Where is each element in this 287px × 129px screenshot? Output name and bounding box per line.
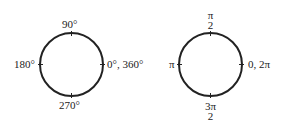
label-270-degrees: 270° [59,100,80,111]
label-0-360-degrees: 0°, 360° [107,59,143,70]
radians-circle [177,31,244,98]
denominator: 2 [199,111,223,121]
unit-circles-graphic [0,0,287,129]
degrees-circle [38,31,105,98]
label-pi-over-2: π 2 [199,10,223,30]
label-3pi-over-2: 3π 2 [199,101,223,121]
denominator: 2 [199,20,223,30]
label-pi: π [169,59,175,70]
label-0-2pi: 0, 2π [248,59,270,70]
label-90-degrees: 90° [62,19,77,30]
label-180-degrees: 180° [14,59,35,70]
